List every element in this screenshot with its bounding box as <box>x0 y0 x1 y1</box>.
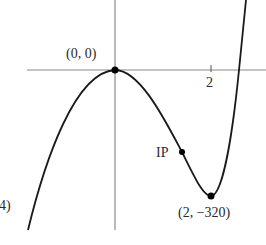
left-label-fragment: 4) <box>0 199 11 213</box>
minimum-label: (2, −320) <box>178 206 230 220</box>
inflection-point <box>179 149 185 155</box>
x-tick-label-2: 2 <box>206 76 213 90</box>
minimum-point <box>208 193 215 200</box>
inflection-label: IP <box>156 146 168 160</box>
origin-label: (0, 0) <box>66 47 96 61</box>
origin-point <box>112 67 119 74</box>
